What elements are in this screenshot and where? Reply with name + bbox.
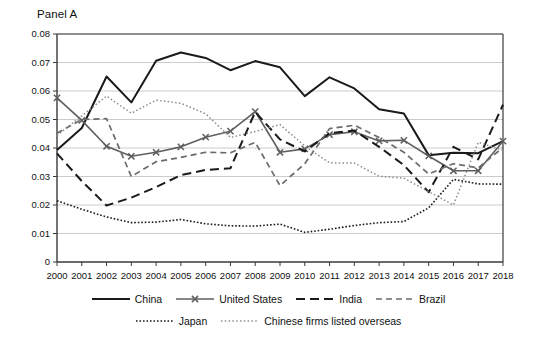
legend-swatch-brazil bbox=[376, 293, 414, 305]
x-axis-tick-label: 2005 bbox=[170, 270, 191, 281]
x-axis-tick-label: 2012 bbox=[344, 270, 365, 281]
y-axis-tick-label: 0.05 bbox=[32, 114, 51, 125]
chart-plot-area: 00.010.020.030.040.050.060.070.082000200… bbox=[0, 0, 537, 290]
line-chart-svg: 00.010.020.030.040.050.060.070.082000200… bbox=[0, 0, 537, 290]
chart-legend: ChinaUnited StatesIndiaBrazilJapanChines… bbox=[0, 288, 537, 332]
x-axis-tick-label: 2016 bbox=[443, 270, 464, 281]
legend-item-chinese_firms_overseas[interactable]: Chinese firms listed overseas bbox=[221, 315, 401, 327]
x-axis-tick-label: 2010 bbox=[294, 270, 315, 281]
legend-item-china[interactable]: China bbox=[92, 293, 162, 305]
x-axis-tick-label: 2018 bbox=[492, 270, 513, 281]
legend-item-japan[interactable]: Japan bbox=[136, 315, 208, 327]
x-axis-tick-label: 2006 bbox=[195, 270, 216, 281]
legend-swatch-india bbox=[296, 293, 334, 305]
legend-label-chinese_firms_overseas: Chinese firms listed overseas bbox=[264, 316, 401, 327]
y-axis-tick-label: 0.02 bbox=[32, 199, 51, 210]
x-axis-tick-label: 2011 bbox=[319, 270, 339, 281]
y-axis-tick-label: 0 bbox=[45, 256, 50, 267]
legend-item-india[interactable]: India bbox=[296, 293, 362, 305]
legend-label-brazil: Brazil bbox=[419, 294, 445, 305]
series-line-chinese_firms_overseas bbox=[57, 96, 503, 205]
legend-row: JapanChinese firms listed overseas bbox=[0, 310, 537, 332]
x-axis-tick-label: 2009 bbox=[269, 270, 290, 281]
x-axis-tick-label: 2015 bbox=[418, 270, 439, 281]
y-axis-tick-label: 0.07 bbox=[32, 57, 51, 68]
legend-label-india: India bbox=[339, 294, 362, 305]
legend-swatch-japan bbox=[136, 315, 174, 327]
legend-item-united_states[interactable]: United States bbox=[176, 293, 282, 305]
x-axis-tick-label: 2002 bbox=[96, 270, 117, 281]
y-axis-tick-label: 0.03 bbox=[32, 171, 51, 182]
y-axis-tick-label: 0.01 bbox=[32, 228, 51, 239]
y-axis-tick-label: 0.08 bbox=[32, 28, 51, 39]
x-axis-tick-label: 2003 bbox=[121, 270, 142, 281]
y-axis-tick-label: 0.04 bbox=[32, 142, 51, 153]
legend-swatch-china bbox=[92, 293, 130, 305]
legend-label-china: China bbox=[135, 294, 162, 305]
x-axis-tick-label: 2017 bbox=[468, 270, 489, 281]
legend-row: ChinaUnited StatesIndiaBrazil bbox=[0, 288, 537, 310]
y-axis-tick-label: 0.06 bbox=[32, 85, 51, 96]
legend-item-brazil[interactable]: Brazil bbox=[376, 293, 445, 305]
x-axis-tick-label: 2001 bbox=[71, 270, 92, 281]
series-line-japan bbox=[57, 179, 503, 232]
x-axis-tick-label: 2004 bbox=[146, 270, 167, 281]
x-axis-tick-label: 2008 bbox=[245, 270, 266, 281]
legend-label-japan: Japan bbox=[179, 316, 208, 327]
x-axis-tick-label: 2013 bbox=[369, 270, 390, 281]
x-axis-tick-label: 2000 bbox=[46, 270, 67, 281]
series-marker-united_states bbox=[103, 143, 109, 149]
x-axis-tick-label: 2007 bbox=[220, 270, 241, 281]
legend-swatch-united_states bbox=[176, 293, 214, 305]
legend-swatch-chinese_firms_overseas bbox=[221, 315, 259, 327]
legend-label-united_states: United States bbox=[219, 294, 282, 305]
x-axis-tick-label: 2014 bbox=[393, 270, 414, 281]
